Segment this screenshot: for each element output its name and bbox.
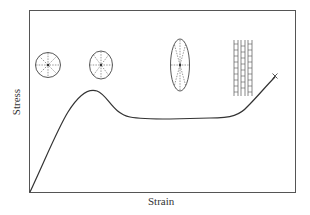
x-axis-label: Strain [148, 195, 174, 207]
slightly-elongated-ellipse-icon [90, 51, 113, 79]
stress-strain-diagram [0, 0, 310, 215]
aligned-fibrils-icon [234, 40, 252, 96]
elongated-ellipse-icon [171, 39, 190, 91]
plot-frame [30, 11, 296, 193]
y-axis-label: Stress [10, 82, 22, 122]
isotropic-circle-icon [36, 53, 61, 78]
